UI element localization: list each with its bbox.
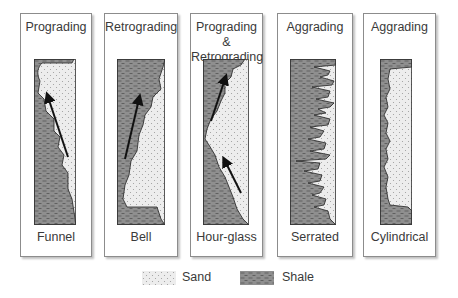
log-column-serrated <box>290 59 336 225</box>
panel-caption: Cylindrical <box>364 230 435 244</box>
panel-title-line1: Prograding & <box>196 20 257 49</box>
panel-caption: Funnel <box>21 230 91 244</box>
legend-item-shale: Shale <box>240 269 330 287</box>
panel-title: Retrograding <box>105 20 177 35</box>
log-column-funnel <box>34 59 76 225</box>
panel-title: Prograding <box>21 20 91 35</box>
panel-title: Aggrading <box>364 20 435 35</box>
shale-swatch-icon <box>240 271 274 285</box>
panel-caption: Bell <box>105 230 177 244</box>
panel-caption: Hour-glass <box>191 230 262 244</box>
log-column-bell <box>117 59 165 225</box>
sand-swatch-icon <box>142 271 176 285</box>
panel-aggrading-cylindrical: Aggrading Cylindrical <box>363 13 436 257</box>
log-column-hourglass <box>203 59 249 225</box>
panel-prograding-retrograding-hourglass: Prograding & Retrograding Hour-glass <box>190 13 263 257</box>
panel-retrograding-bell: Retrograding Bell <box>104 13 178 257</box>
legend-item-sand: Sand <box>142 269 222 287</box>
panel-caption: Serrated <box>278 230 352 244</box>
log-column-cylindrical <box>380 59 412 225</box>
panel-title: Aggrading <box>278 20 352 35</box>
panel-prograding-funnel: Prograding Funnel <box>20 13 92 257</box>
panel-aggrading-serrated: Aggrading Serrated <box>277 13 353 257</box>
legend-label: Shale <box>282 270 314 284</box>
legend-label: Sand <box>182 270 211 284</box>
